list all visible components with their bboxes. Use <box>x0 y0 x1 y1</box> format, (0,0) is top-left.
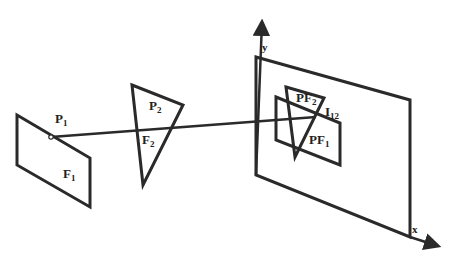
label-p2: P2 <box>149 99 161 115</box>
x-axis <box>410 237 438 246</box>
face-f1 <box>17 115 90 207</box>
label-x-axis: x <box>412 224 418 235</box>
diagram-canvas: P1 F1 P2 F2 PF2 I12 PF1 y x <box>0 0 458 265</box>
label-f1: F1 <box>63 167 75 183</box>
point-p1-marker <box>49 135 53 139</box>
label-i12: I12 <box>325 105 339 121</box>
label-pf1: PF1 <box>309 133 329 149</box>
label-pf2: PF2 <box>296 91 316 107</box>
image-plane <box>256 57 410 237</box>
diagram-svg <box>0 0 458 265</box>
label-y-axis: y <box>262 42 268 53</box>
label-f2: F2 <box>142 133 154 149</box>
label-p1: P1 <box>55 112 67 128</box>
